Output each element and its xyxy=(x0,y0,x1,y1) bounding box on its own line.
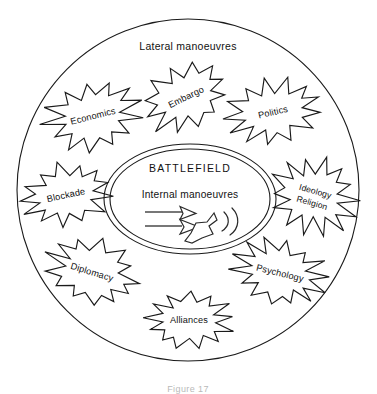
internal-arrows xyxy=(145,207,238,244)
burst-alliances: Alliances xyxy=(143,291,233,348)
inward-arrow-upper xyxy=(145,207,196,220)
figure-root: Lateral manoeuvres EconomicsEmbargoPolit… xyxy=(0,0,377,394)
burst-psychology: Psychology xyxy=(223,229,336,316)
lateral-manoeuvres-diagram: Lateral manoeuvres EconomicsEmbargoPolit… xyxy=(0,0,377,394)
burst-politics: Politics xyxy=(216,67,326,154)
burst-economics: Economics xyxy=(33,72,151,163)
internal-manoeuvres-label: Internal manoeuvres xyxy=(142,189,239,200)
battlefield-heading: BATTLEFIELD xyxy=(149,162,231,174)
diagram-title: Lateral manoeuvres xyxy=(139,40,236,52)
burst-diplomacy: Diplomacy xyxy=(34,223,149,316)
burst-embargo: Embargo xyxy=(133,50,237,145)
figure-caption: Figure 17 xyxy=(167,384,209,394)
inward-arrow-lower xyxy=(145,220,199,235)
burst-blockade: Blockade xyxy=(14,152,118,235)
burst-label-alliances: Alliances xyxy=(170,315,208,325)
battlefield-core: BATTLEFIELD Internal manoeuvres xyxy=(104,144,276,254)
